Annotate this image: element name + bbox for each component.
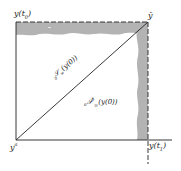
right-shaded-band [137, 22, 148, 140]
label-y-t1: y(t1) [149, 142, 166, 152]
label-interior-set: 0𝒮*∞(y(0)) [84, 97, 118, 108]
label-y-bar: ȳ [148, 12, 153, 20]
band-highlight [48, 27, 51, 28]
diagram-canvas: y(t0) ȳ ya y(t1) 0𝒮∞(y(0)) 0𝒮*∞(y(0)) [0, 0, 181, 171]
top-shaded-band [16, 22, 148, 35]
label-y-t0: y(t0) [14, 10, 31, 20]
label-y-a: ya [10, 142, 18, 152]
diagonal-line [16, 22, 148, 140]
